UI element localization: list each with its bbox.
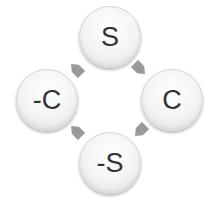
node-neg-s: -S (79, 132, 141, 194)
arrow-neg-s-to-neg-c-icon (65, 120, 86, 141)
node-neg-s-label: -S (97, 150, 124, 177)
arrow-c-to-neg-s-icon (129, 120, 150, 141)
node-s: S (79, 6, 141, 68)
arrow-s-to-c-icon (129, 58, 150, 79)
arrow-neg-c-to-s-icon (65, 58, 86, 79)
node-neg-c: -C (16, 69, 78, 131)
node-c-label: C (162, 87, 182, 114)
node-neg-c-label: -C (33, 87, 62, 114)
node-c: C (141, 69, 203, 131)
node-s-label: S (101, 24, 119, 51)
